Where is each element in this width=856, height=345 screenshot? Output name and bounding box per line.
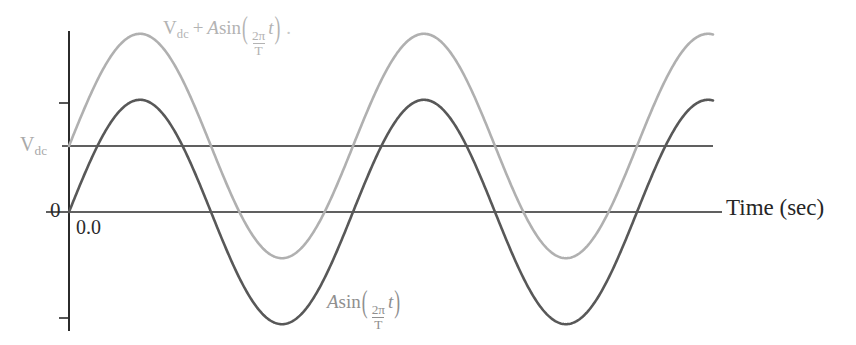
formula-bottom-fn: sin <box>339 291 361 312</box>
formula-top-paren-close: ) <box>275 13 281 45</box>
formula-top-amp: A <box>207 17 219 38</box>
y-axis-dc-level-label: Vdc <box>20 134 47 157</box>
formula-top-plus: + <box>193 17 204 38</box>
formula-top-fraction: 2πT <box>250 29 267 57</box>
plot-canvas <box>0 0 856 345</box>
formula-bottom-fraction: 2πT <box>370 303 387 331</box>
formula-top-v: V <box>163 17 177 38</box>
formula-bottom-denominator: T <box>372 317 384 332</box>
formula-top-numerator: 2π <box>250 29 267 43</box>
x-axis-origin-tick-label: 0.0 <box>76 217 101 237</box>
vdc-subscript: dc <box>34 143 47 158</box>
formula-top-var: t <box>268 17 273 38</box>
formula-bottom-numerator: 2π <box>370 303 387 317</box>
annotation-sine-formula: Asin(2πTt) <box>327 292 401 332</box>
formula-top-v-sub: dc <box>177 27 189 41</box>
formula-top-paren-open: ( <box>242 13 248 45</box>
formula-top-denominator: T <box>253 43 265 58</box>
formula-bottom-paren-close: ) <box>394 287 400 319</box>
formula-top-fn: sin <box>219 17 241 38</box>
formula-bottom-amp: A <box>327 291 339 312</box>
vdc-symbol: V <box>20 133 34 155</box>
sine-wave-figure: Vdc + Asin(2πTt) . Asin(2πTt) Vdc 0 0.0 … <box>0 0 856 345</box>
formula-top-trailing: . <box>286 17 291 38</box>
formula-bottom-paren-open: ( <box>362 287 368 319</box>
formula-bottom-var: t <box>388 291 393 312</box>
annotation-vdc-plus-sine-formula: Vdc + Asin(2πTt) . <box>163 18 291 58</box>
y-axis-zero-label: 0 <box>50 200 61 221</box>
x-axis-title: Time (sec) <box>726 196 824 219</box>
